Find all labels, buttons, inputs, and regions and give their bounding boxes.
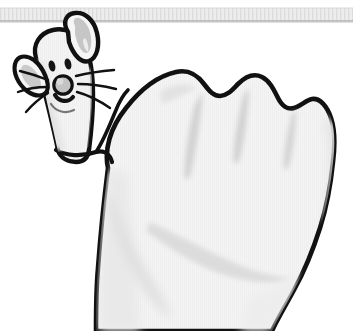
nose bbox=[54, 76, 72, 94]
illustration-canvas: Hand puppet mouse Cartoon line drawing o… bbox=[0, 0, 353, 331]
hand-puppet-mouse-drawing bbox=[0, 0, 353, 331]
nose-highlight bbox=[57, 78, 64, 85]
shelf-band bbox=[0, 8, 353, 23]
